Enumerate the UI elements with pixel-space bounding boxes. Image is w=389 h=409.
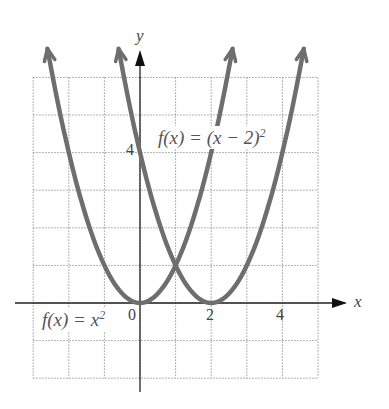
equation-base-exponent: 2 [99, 308, 105, 322]
chart-canvas [0, 0, 389, 409]
grid [33, 77, 318, 378]
origin-label: 0 [128, 306, 136, 324]
y-axis-label: y [136, 26, 144, 46]
equation-base-text: f(x) = x [42, 309, 99, 330]
equation-shifted-exponent: 2 [260, 126, 266, 140]
x-axis-label: x [354, 292, 362, 312]
equation-shifted-text: f(x) = (x − 2) [158, 127, 260, 148]
x-tick-2: 2 [206, 306, 214, 324]
x-tick-4: 4 [276, 306, 284, 324]
equation-label-base: f(x) = x2 [40, 308, 107, 331]
y-axis-arrow-icon [135, 50, 145, 66]
equation-label-shifted: f(x) = (x − 2)2 [156, 126, 268, 149]
x-axis-arrow-icon [332, 298, 347, 308]
y-tick-4: 4 [126, 141, 134, 159]
